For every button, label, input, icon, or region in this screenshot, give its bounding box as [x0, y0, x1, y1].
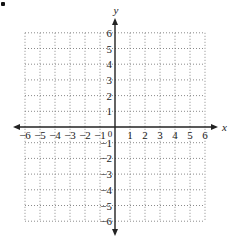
x-tick-label: 2 [142, 129, 148, 141]
x-tick-label: −6 [19, 129, 31, 141]
y-tick-label: −3 [100, 168, 112, 180]
y-tick-label: 2 [107, 90, 113, 102]
x-tick-labels: −6−5−4−3−2−1123456 [19, 129, 208, 141]
axes [13, 18, 218, 236]
x-tick-label: −5 [34, 129, 46, 141]
y-tick-label: 1 [107, 105, 113, 117]
x-tick-label: −2 [79, 129, 91, 141]
y-tick-label: 6 [107, 27, 113, 39]
y-tick-label: −5 [100, 200, 112, 212]
y-tick-label: −6 [100, 215, 112, 227]
x-tick-label: 4 [172, 129, 178, 141]
x-axis-label: x [221, 121, 227, 133]
y-tick-label: 5 [107, 43, 113, 55]
x-axis-right-arrow-icon [211, 124, 218, 130]
x-tick-label: −3 [64, 129, 76, 141]
y-axis-up-arrow-icon [112, 18, 118, 25]
y-axis-down-arrow-icon [112, 229, 118, 236]
y-tick-label: 4 [107, 58, 113, 70]
y-tick-label: 3 [107, 74, 113, 86]
y-tick-label: −4 [100, 184, 112, 196]
origin-label: 0 [108, 129, 113, 139]
x-tick-label: 6 [202, 129, 208, 141]
y-tick-label: −2 [100, 152, 112, 164]
y-axis-label: y [113, 4, 119, 16]
x-tick-label: 5 [187, 129, 193, 141]
x-tick-label: −4 [49, 129, 61, 141]
x-tick-label: 3 [157, 129, 163, 141]
coordinate-plane: −6−5−4−3−2−1123456 −6−5−4−3−2−1123456 x … [0, 0, 232, 245]
x-tick-label: 1 [127, 129, 133, 141]
